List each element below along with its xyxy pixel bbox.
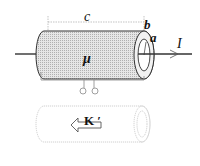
label-length-c: c <box>84 10 90 24</box>
label-current-I: I <box>177 37 182 51</box>
terminal-right <box>92 88 98 94</box>
terminal-left <box>80 88 86 94</box>
dimension-c <box>48 16 144 32</box>
magnetized-cylinder <box>36 31 154 79</box>
label-surface-current-K: K ′ <box>84 114 101 127</box>
label-permeability-mu: μ <box>83 52 91 66</box>
label-inner-radius-a: a <box>150 31 157 44</box>
diagram-canvas <box>0 0 200 166</box>
